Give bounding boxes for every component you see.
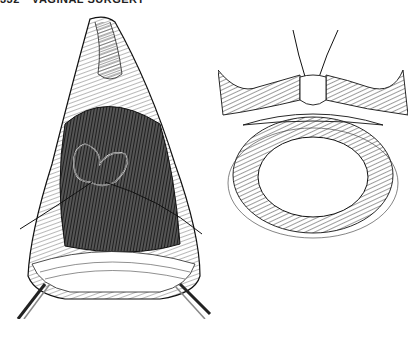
- surgical-field-illustration: [10, 14, 215, 319]
- page-number: 332: [0, 0, 20, 5]
- running-title: VAGINAL SURGERY: [32, 0, 145, 5]
- running-header: 332VAGINAL SURGERY: [0, 0, 200, 7]
- cross-section-illustration: [218, 25, 408, 240]
